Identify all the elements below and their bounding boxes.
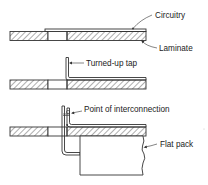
interconnection-arrowhead (71, 112, 74, 115)
flat-pack-interconnection-diagram: Circuitry Laminate Turned-up tap (0, 0, 208, 185)
laminate-left (10, 32, 48, 41)
laminate-gap (48, 32, 67, 41)
circuitry-label: Circuitry (155, 11, 186, 20)
stage-3-section: Point of interconnection Flat pack (10, 105, 194, 175)
tap-label: Turned-up tap (86, 59, 138, 68)
flat-pack-leader (145, 144, 157, 147)
circuitry-leader (133, 15, 152, 29)
scan-speck (204, 129, 205, 130)
laminate-label: Laminate (159, 44, 193, 53)
flat-pack-body (80, 136, 145, 175)
tap-arrowhead (69, 62, 72, 65)
interconnection-label: Point of interconnection (84, 105, 170, 114)
flat-pack-label: Flat pack (160, 140, 194, 149)
laminate-left (10, 80, 48, 89)
laminate-gap (48, 80, 67, 89)
laminate-right (67, 80, 146, 89)
flat-pack-arrowhead (144, 146, 148, 149)
laminate-right (67, 32, 146, 41)
stage-1-section: Circuitry Laminate (10, 11, 193, 53)
stage-2-section: Turned-up tap (10, 58, 146, 90)
laminate-left (10, 127, 48, 136)
laminate-leader (142, 41, 157, 48)
circuitry-leader-dot (132, 28, 134, 30)
laminate-right (67, 127, 146, 136)
